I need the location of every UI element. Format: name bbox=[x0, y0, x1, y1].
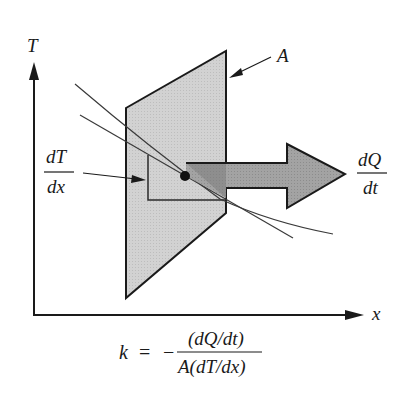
gradient-label: dT dx bbox=[44, 146, 74, 197]
y-axis-arrowhead-icon bbox=[29, 62, 39, 80]
formula-lhs: k bbox=[119, 341, 129, 363]
heat-rate-denominator: dt bbox=[363, 177, 379, 198]
formula-numerator: (dQ/dt) bbox=[188, 328, 244, 350]
x-axis-label: x bbox=[371, 303, 381, 324]
x-axis-arrowhead-icon bbox=[345, 310, 364, 320]
heat-rate-numerator: dQ bbox=[358, 149, 382, 170]
area-pointer-arrowhead-icon bbox=[229, 68, 243, 78]
formula-equals: = bbox=[139, 341, 150, 363]
area-pointer bbox=[229, 57, 271, 78]
gradient-numerator: dT bbox=[46, 146, 68, 167]
y-axis-label: T bbox=[27, 35, 39, 56]
heat-rate-label: dQ dt bbox=[357, 149, 387, 198]
formula-sign: − bbox=[163, 341, 174, 363]
formula-denominator: A(dT/dx) bbox=[176, 356, 246, 378]
point-marker bbox=[180, 171, 190, 181]
conductivity-formula: k = − (dQ/dt) A(dT/dx) bbox=[119, 328, 262, 378]
gradient-denominator: dx bbox=[47, 176, 66, 197]
heat-conduction-diagram: T x A dT dx dQ dt k = − (dQ/dt) A(dT/dx) bbox=[0, 0, 412, 399]
area-label: A bbox=[275, 45, 289, 66]
